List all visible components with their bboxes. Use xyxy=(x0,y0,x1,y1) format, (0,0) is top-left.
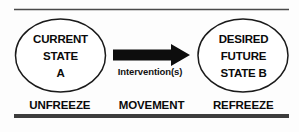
current-state-line-2: STATE xyxy=(15,48,106,65)
current-state-label: CURRENT STATE A xyxy=(15,31,106,82)
desired-state-line-3: STATE B xyxy=(198,65,289,82)
current-state-line-3: A xyxy=(15,65,106,82)
current-state-line-1: CURRENT xyxy=(15,31,106,48)
phase-label-unfreeze: UNFREEZE xyxy=(14,99,106,111)
desired-state-label: DESIRED FUTURE STATE B xyxy=(198,31,289,82)
phase-label-refreeze: REFREEZE xyxy=(197,99,289,111)
intervention-label: Intervention(s) xyxy=(103,66,197,77)
change-model-diagram: CURRENT STATE A DESIRED FUTURE STATE B I… xyxy=(0,0,299,132)
phase-label-row: UNFREEZE MOVEMENT REFREEZE xyxy=(14,99,289,111)
desired-state-line-1: DESIRED xyxy=(198,31,289,48)
phase-label-movement: MOVEMENT xyxy=(106,99,198,111)
desired-state-line-2: FUTURE xyxy=(198,48,289,65)
arrow-right-icon xyxy=(113,44,190,66)
